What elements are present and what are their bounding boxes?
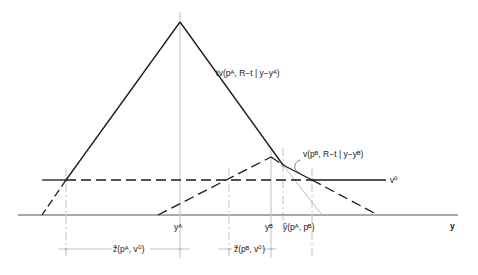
interval-label-zA: z̃(pᴬ, v⁰) <box>113 244 145 254</box>
v0-label: v⁰ <box>390 175 398 185</box>
curve-A <box>42 22 283 215</box>
curve-A-label: ℓv(pᴬ, R−t | y−yᴬ) <box>215 68 280 78</box>
yhat-projection-line <box>283 165 322 215</box>
curve-B <box>158 157 378 215</box>
spatial-competition-diagram: ℓv(pᴬ, R−t | y−yᴬ) v(pᴮ, R−t | y−yᴮ) v⁰ … <box>0 0 478 275</box>
tick-label-yB: yᴮ <box>265 222 273 232</box>
tick-markers <box>65 164 314 251</box>
vertical-guides <box>66 12 312 258</box>
tick-label-yhat: ŷ(pᴬ, pᴮ) <box>283 222 315 232</box>
tick-label-yA: yᴬ <box>174 222 182 232</box>
interval-label-zB: z̃(pᴮ, v⁰) <box>234 244 266 254</box>
curve-B-label: v(pᴮ, R−t | y−yᴮ) <box>303 149 363 159</box>
axis-y-label: y <box>450 221 455 231</box>
